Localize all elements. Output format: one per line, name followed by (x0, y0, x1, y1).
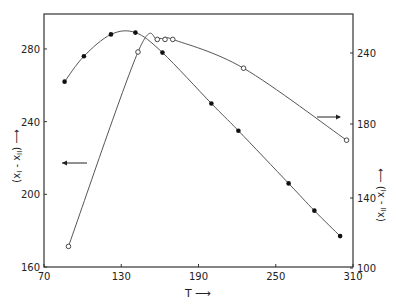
y-right-tick-label: 140 (357, 193, 376, 204)
open-marker (170, 37, 175, 42)
chart: 70130190250310160200240280100140180240 T… (0, 0, 396, 304)
filled-marker (312, 208, 317, 213)
open-marker (241, 66, 246, 71)
y-left-tick-label: 160 (21, 262, 40, 273)
x-tick-label: 190 (189, 271, 208, 282)
filled-marker (286, 181, 291, 186)
plot-border (44, 14, 353, 267)
filled-marker (133, 30, 138, 35)
open-marker (136, 50, 141, 55)
filled-marker (338, 234, 343, 239)
filled-marker (82, 54, 87, 59)
right-arrow-icon (336, 115, 341, 120)
filled-marker (62, 79, 67, 84)
chart-svg: 70130190250310160200240280100140180240 T… (0, 0, 396, 304)
x-axis-label: T ⟶ (184, 287, 211, 300)
filled-marker (236, 128, 241, 133)
open-marker (163, 37, 168, 42)
filled-marker (109, 32, 114, 37)
plot-frame (44, 14, 353, 267)
y-right-tick-label: 100 (357, 263, 376, 274)
open-marker (66, 244, 71, 249)
left-axis-label-text: (xI - xII) ⟶ (11, 129, 24, 182)
y-left-tick-label: 280 (21, 44, 40, 55)
series-curve (65, 31, 341, 236)
filled-marker (160, 50, 165, 55)
left-axis-label: (xI - xII) ⟶ (11, 129, 24, 182)
series-curve (68, 33, 346, 246)
left-arrow-icon (62, 161, 67, 166)
x-tick-label: 130 (112, 271, 131, 282)
x-tick-label: 250 (266, 271, 285, 282)
filled-marker (209, 101, 214, 106)
y-right-tick-label: 240 (357, 48, 376, 59)
y-left-tick-label: 240 (21, 117, 40, 128)
y-right-tick-label: 180 (357, 119, 376, 130)
open-marker (344, 138, 349, 143)
curves (65, 31, 347, 247)
right-axis-label-text: (xII - xI) ⟶ (375, 168, 388, 221)
open-marker (155, 37, 160, 42)
right-axis-label: (xII - xI) ⟶ (375, 168, 388, 221)
y-left-tick-label: 200 (21, 189, 40, 200)
